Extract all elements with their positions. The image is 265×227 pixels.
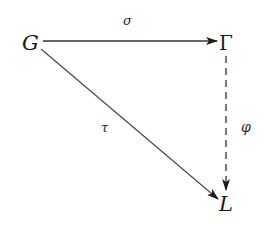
node-L: L: [218, 192, 233, 216]
arrow-tau: [41, 49, 218, 199]
commutative-diagram: G Γ L σ τ φ: [0, 0, 265, 227]
label-sigma: σ: [123, 13, 133, 28]
node-G: G: [22, 31, 39, 55]
label-phi: φ: [241, 119, 251, 135]
node-Gamma: Γ: [219, 31, 233, 55]
label-tau: τ: [101, 120, 109, 135]
